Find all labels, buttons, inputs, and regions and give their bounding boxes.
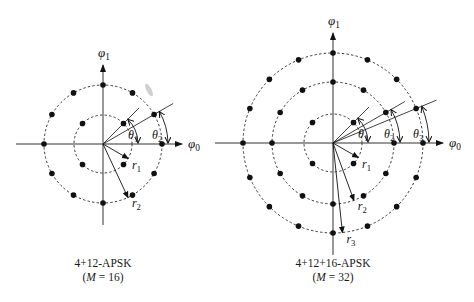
constellation-point: [247, 175, 253, 181]
apsk32-title: 4+12+16-APSK: [268, 256, 398, 270]
constellation-point: [394, 204, 400, 210]
constellation-point: [300, 87, 306, 93]
constellation-point: [269, 140, 275, 146]
constellation-point: [330, 50, 336, 56]
constellation-point: [267, 204, 273, 210]
constellation-point: [365, 57, 371, 63]
constellation-point: [121, 162, 127, 168]
phi0-axis-label: φ0: [449, 135, 461, 152]
constellation-point: [267, 77, 273, 83]
apsk16-constellation: φ0φ1r1θ1r2θ2: [16, 45, 200, 225]
radius-label-r1: r1: [362, 157, 371, 173]
constellation-point: [394, 77, 400, 83]
constellation-point: [310, 120, 316, 126]
constellation-point: [310, 161, 316, 167]
constellation-point: [296, 57, 302, 63]
constellation-point: [49, 171, 55, 177]
constellation-point: [365, 223, 371, 229]
constellation-point: [361, 193, 367, 199]
constellation-point: [71, 90, 77, 96]
constellation-point: [277, 110, 283, 116]
apsk32-caption: 4+12+16-APSK (M = 32): [268, 256, 398, 284]
apsk16-caption: 4+12-APSK (M = 16): [43, 256, 163, 284]
constellation-point: [277, 171, 283, 177]
constellation-point: [151, 171, 157, 177]
constellation-point: [130, 90, 136, 96]
apsk32-constellation: φ0φ1r1θ1r2θ2r3θ3: [215, 13, 461, 255]
phi1-axis-label: φ1: [98, 45, 110, 62]
constellation-point: [240, 140, 246, 146]
phi0-axis-label: φ0: [188, 136, 200, 153]
radius-arrow-2: [103, 144, 128, 197]
constellation-point: [80, 162, 86, 168]
constellation-point: [413, 175, 419, 181]
constellation-point: [80, 121, 86, 127]
constellation-point: [361, 87, 367, 93]
angle-label-theta3: θ3: [413, 127, 423, 143]
radius-label-r3: r3: [346, 232, 355, 248]
radius-arrow-1: [333, 143, 358, 158]
constellation-point: [100, 200, 106, 206]
constellation-point: [383, 171, 389, 177]
constellation-point: [296, 223, 302, 229]
constellation-point: [330, 201, 336, 207]
constellation-point: [351, 161, 357, 167]
constellation-point: [49, 112, 55, 118]
constellation-point: [300, 193, 306, 199]
apsk16-title: 4+12-APSK: [43, 256, 163, 270]
constellation-point: [330, 79, 336, 85]
constellation-point: [71, 192, 77, 198]
constellation-point: [100, 82, 106, 88]
radius-label-r2: r2: [132, 196, 141, 212]
radius-label-r1: r1: [132, 158, 141, 174]
scan-smudge: [144, 83, 155, 98]
radius-label-r2: r2: [358, 199, 367, 215]
constellation-point: [247, 106, 253, 112]
constellation-point: [41, 141, 47, 147]
angle-label-theta1: θ1: [128, 128, 138, 144]
apsk32-order: (M = 32): [268, 270, 398, 284]
constellation-point: [330, 230, 336, 236]
apsk16-order: (M = 16): [43, 270, 163, 284]
phi1-axis-label: φ1: [328, 13, 340, 30]
